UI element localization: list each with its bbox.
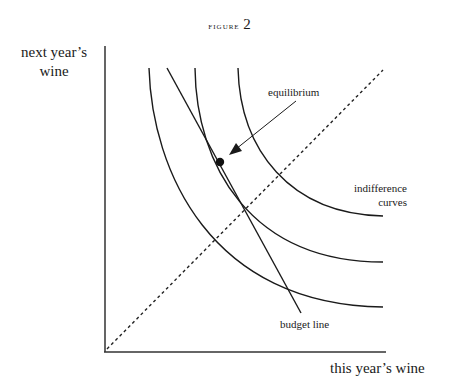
indifference-curves-label: indifference curves [354,181,407,209]
equilibrium-arrow-head [229,143,242,155]
x-axis-label: this year’s wine [330,360,425,377]
indifference-label-line2: curves [354,195,407,209]
equilibrium-arrow-shaft [236,101,296,149]
equilibrium-label: equilibrium [268,86,319,98]
budget-line [167,68,301,313]
budget-line-label: budget line [280,318,329,330]
equilibrium-point [216,158,224,166]
indifference-label-line1: indifference [354,181,407,195]
